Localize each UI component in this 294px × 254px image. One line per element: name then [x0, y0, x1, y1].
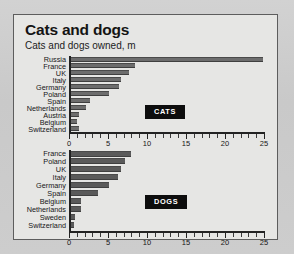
x-tick-minor — [241, 233, 242, 237]
x-tick-minor — [139, 134, 140, 138]
x-tick-minor — [163, 233, 164, 237]
bar-rows-cats: RussiaFranceUKItalyGermanyPolandSpainNet… — [14, 56, 279, 133]
x-tick-minor — [77, 134, 78, 138]
category-label: Switzerland — [28, 125, 66, 134]
x-tick-minor — [100, 134, 101, 138]
x-tick-minor — [202, 233, 203, 237]
x-tick-minor — [209, 233, 210, 237]
bar — [70, 77, 121, 82]
x-tick-minor — [194, 233, 195, 237]
bar — [70, 84, 119, 89]
x-tick-minor — [92, 233, 93, 237]
bar — [70, 190, 98, 196]
x-tick-minor — [100, 233, 101, 237]
x-tick-minor — [170, 233, 171, 237]
bar-row: Poland — [14, 158, 279, 166]
x-tick-minor — [155, 233, 156, 237]
x-tick-minor — [131, 233, 132, 237]
y-axis-line — [69, 56, 71, 132]
x-tick-minor — [209, 134, 210, 138]
x-tick-label: 20 — [221, 238, 229, 247]
figure-panel: Cats and dogs Cats and dogs owned, m Rus… — [13, 14, 278, 240]
x-tick-minor — [217, 233, 218, 237]
bar — [70, 70, 129, 75]
x-tick-minor — [77, 233, 78, 237]
series-badge-dogs: DOGS — [145, 195, 187, 209]
bar — [70, 57, 263, 62]
bar — [70, 198, 81, 204]
x-tick-minor — [233, 134, 234, 138]
x-tick-label: 10 — [143, 238, 151, 247]
x-tick-minor — [248, 134, 249, 138]
figure-subtitle: Cats and dogs owned, m — [25, 40, 136, 51]
category-label: Switzerland — [28, 221, 66, 230]
bar — [70, 98, 90, 103]
x-tick-minor — [155, 134, 156, 138]
x-tick-label: 15 — [182, 238, 190, 247]
bar — [70, 126, 79, 131]
x-tick-minor — [194, 134, 195, 138]
bar-row: France — [14, 63, 279, 70]
x-tick-minor — [256, 134, 257, 138]
series-badge-cats: CATS — [145, 105, 185, 119]
bar — [70, 112, 79, 117]
x-tick-label: 0 — [67, 238, 71, 247]
bar — [70, 182, 109, 188]
x-tick-minor — [178, 233, 179, 237]
x-tick-minor — [92, 134, 93, 138]
x-tick-minor — [248, 233, 249, 237]
x-tick-minor — [170, 134, 171, 138]
x-tick-minor — [217, 134, 218, 138]
bar-chart-cats: RussiaFranceUKItalyGermanyPolandSpainNet… — [14, 54, 279, 133]
bar — [70, 174, 118, 180]
bar — [70, 91, 109, 96]
x-tick-minor — [163, 134, 164, 138]
bar — [70, 166, 121, 172]
x-tick-minor — [116, 233, 117, 237]
x-tick-minor — [139, 233, 140, 237]
bar — [70, 105, 86, 110]
bar — [70, 119, 77, 124]
x-tick-minor — [131, 134, 132, 138]
figure-title: Cats and dogs — [25, 21, 129, 39]
bar — [70, 151, 131, 157]
bar — [70, 206, 81, 212]
bar-chart-dogs: FrancePolandUKItalyGermanySpainBelgiumNe… — [14, 141, 279, 233]
bar — [70, 158, 125, 164]
x-tick-label: 25 — [260, 238, 268, 247]
x-axis-ticks-dogs: 0510152025 — [69, 233, 265, 242]
x-tick-minor — [241, 134, 242, 138]
x-tick-minor — [178, 134, 179, 138]
x-tick-minor — [124, 134, 125, 138]
bar-rows-dogs: FrancePolandUKItalyGermanySpainBelgiumNe… — [14, 150, 279, 230]
x-tick-minor — [202, 134, 203, 138]
y-axis-line — [69, 150, 71, 231]
x-tick-minor — [124, 233, 125, 237]
bar — [70, 63, 135, 68]
x-tick-minor — [85, 233, 86, 237]
x-tick-minor — [85, 134, 86, 138]
x-tick-minor — [256, 233, 257, 237]
x-tick-label: 5 — [106, 238, 110, 247]
x-tick-minor — [233, 233, 234, 237]
bar-row: Switzerland — [14, 222, 279, 230]
x-tick-minor — [116, 134, 117, 138]
